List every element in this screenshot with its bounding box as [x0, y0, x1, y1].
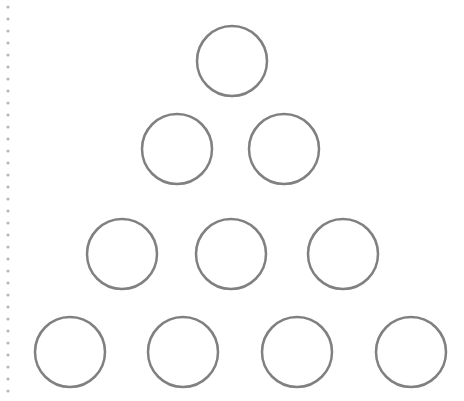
margin-dot	[6, 317, 9, 320]
margin-dot	[6, 173, 9, 176]
margin-dot	[6, 257, 9, 260]
margin-dot	[6, 233, 9, 236]
circle-triangle-diagram	[0, 0, 464, 401]
margin-dot	[6, 17, 9, 20]
margin-dot	[6, 149, 9, 152]
margin-dot	[6, 197, 9, 200]
circle-row3-5	[308, 219, 378, 289]
margin-dot	[6, 41, 9, 44]
circle-row4-9	[376, 317, 446, 387]
dotted-margin-line	[6, 5, 9, 392]
margin-dot	[6, 221, 9, 224]
circle-row2-2	[249, 114, 319, 184]
margin-dot	[6, 113, 9, 116]
margin-dot	[6, 245, 9, 248]
margin-dot	[6, 341, 9, 344]
margin-dot	[6, 125, 9, 128]
margin-dot	[6, 305, 9, 308]
margin-dot	[6, 77, 9, 80]
margin-dot	[6, 137, 9, 140]
circle-row4-7	[148, 317, 218, 387]
margin-dot	[6, 269, 9, 272]
circle-row3-4	[196, 219, 266, 289]
margin-dot	[6, 209, 9, 212]
margin-dot	[6, 377, 9, 380]
margin-dot	[6, 101, 9, 104]
circle-group	[35, 26, 446, 387]
margin-dot	[6, 185, 9, 188]
margin-dot	[6, 161, 9, 164]
circle-row3-3	[87, 219, 157, 289]
circle-row2-1	[142, 114, 212, 184]
margin-dot	[6, 281, 9, 284]
circle-row4-6	[35, 317, 105, 387]
margin-dot	[6, 329, 9, 332]
margin-dot	[6, 5, 9, 8]
margin-dot	[6, 365, 9, 368]
margin-dot	[6, 353, 9, 356]
margin-dot	[6, 89, 9, 92]
margin-dot	[6, 53, 9, 56]
margin-dot	[6, 65, 9, 68]
margin-dot	[6, 293, 9, 296]
margin-dot	[6, 29, 9, 32]
circle-row4-8	[262, 317, 332, 387]
circle-row1-0	[197, 26, 267, 96]
margin-dot	[6, 389, 9, 392]
